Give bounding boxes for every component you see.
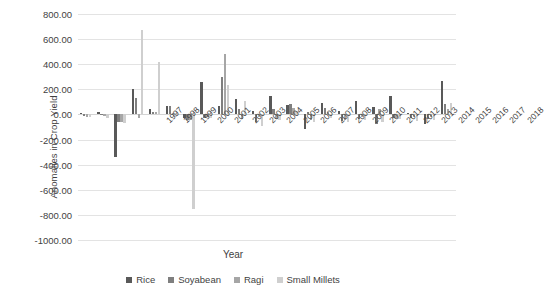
x-axis-title: Year <box>0 249 466 260</box>
bar-group <box>353 14 370 240</box>
legend-item[interactable]: Ragi <box>234 274 264 285</box>
bar <box>89 114 91 117</box>
y-axis-tick-label: -600.00 <box>40 184 72 195</box>
legend-swatch-icon <box>126 277 132 283</box>
chart-legend: RiceSoyabeanRagiSmall Millets <box>0 274 466 285</box>
gridline <box>78 240 456 241</box>
bar-group <box>267 14 284 240</box>
x-axis-tick-label: 2014 <box>456 105 476 125</box>
bar <box>138 114 140 118</box>
bar-group <box>198 14 215 240</box>
bar-group <box>181 14 198 240</box>
bar <box>158 62 160 115</box>
bar-group <box>164 14 181 240</box>
legend-swatch-icon <box>168 277 174 283</box>
legend-label: Rice <box>136 274 155 285</box>
legend-label: Ragi <box>244 274 264 285</box>
legend-swatch-icon <box>277 277 283 283</box>
legend-item[interactable]: Small Millets <box>277 274 340 285</box>
plot-area: 800.00600.00400.00200.000.00-200.00-400.… <box>78 14 456 240</box>
bar-group <box>336 14 353 240</box>
y-axis-tick-label: -400.00 <box>40 159 72 170</box>
y-axis-tick-label: -200.00 <box>40 134 72 145</box>
legend-item[interactable]: Rice <box>126 274 155 285</box>
x-axis-tick-label: 2015 <box>473 105 493 125</box>
bar <box>200 82 202 115</box>
bar <box>192 114 194 208</box>
bar <box>123 114 125 123</box>
bar-group <box>439 14 456 240</box>
bar-group <box>78 14 95 240</box>
y-axis-tick-label: -800.00 <box>40 209 72 220</box>
legend-item[interactable]: Soyabean <box>168 274 221 285</box>
bar-groups <box>78 14 456 240</box>
legend-label: Small Millets <box>287 274 340 285</box>
bar-group <box>250 14 267 240</box>
x-axis-tick-label: 2017 <box>507 105 527 125</box>
bar-group <box>284 14 301 240</box>
bar-group <box>387 14 404 240</box>
bar-group <box>301 14 318 240</box>
y-axis-tick-label: 400.00 <box>43 59 72 70</box>
bar <box>141 30 143 115</box>
bar-group <box>95 14 112 240</box>
x-axis-tick-label: 2016 <box>490 105 510 125</box>
bar-group <box>422 14 439 240</box>
y-axis-tick-label: 800.00 <box>43 9 72 20</box>
bar-group <box>405 14 422 240</box>
bar-group <box>216 14 233 240</box>
bar-group <box>319 14 336 240</box>
bar <box>106 114 108 118</box>
y-axis-tick-label: 200.00 <box>43 84 72 95</box>
y-axis-tick-label: -1000.00 <box>34 235 72 246</box>
bar-group <box>370 14 387 240</box>
bar-group <box>112 14 129 240</box>
bar <box>135 98 137 114</box>
x-axis-tick-label: 2018 <box>525 105 545 125</box>
bar-group <box>147 14 164 240</box>
y-axis-tick-label: 600.00 <box>43 34 72 45</box>
legend-label: Soyabean <box>178 274 221 285</box>
bar-group <box>233 14 250 240</box>
bar-group <box>130 14 147 240</box>
y-axis-tick-label: 0.00 <box>54 109 73 120</box>
legend-swatch-icon <box>234 277 240 283</box>
